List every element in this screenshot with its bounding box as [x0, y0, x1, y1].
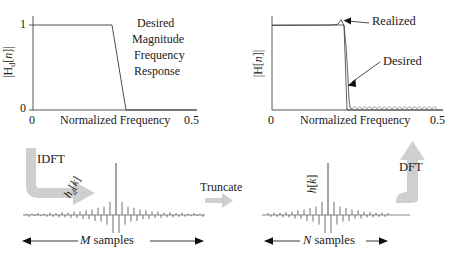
tr-x-axis-label: Normalized Frequency: [300, 113, 410, 128]
br-span-label: N samples: [303, 233, 355, 248]
idft-label: IDFT: [37, 152, 65, 167]
tr-realized-arrowhead: [344, 18, 352, 25]
tr-stopband-ripple: [352, 107, 437, 109]
tl-xtick-label-max: 0.5: [184, 113, 199, 128]
truncate-arrow-shape: [205, 193, 233, 208]
filter-design-figure: 1 0 |Hd[n]| 0 0.5 Normalized Frequency D…: [0, 0, 459, 254]
tr-xtick-label-max: 0.5: [430, 113, 445, 128]
dft-label: DFT: [399, 160, 423, 175]
tl-annotation-line-3: Frequency: [134, 48, 185, 63]
tr-realized-leader: [348, 21, 369, 23]
bl-span-label: M samples: [80, 233, 134, 248]
tl-annotation-line-1: Desired: [137, 16, 174, 31]
tr-xtick-label-0: 0: [268, 113, 274, 128]
tl-ytick-label-1: 1: [20, 17, 26, 32]
tl-y-axis-label: |Hd[n]|: [1, 46, 17, 77]
br-series-label: h[k]: [306, 175, 318, 194]
tl-x-axis-label: Normalized Frequency: [60, 113, 170, 128]
tr-desired-leader: [352, 62, 380, 82]
truncate-label: Truncate: [200, 180, 242, 195]
br-stems: [268, 163, 388, 233]
tl-annotation-line-4: Response: [134, 64, 180, 79]
tr-y-axis-label: |H[n]|: [251, 50, 266, 77]
tr-desired-arrowhead: [348, 80, 357, 88]
tr-callout-desired: Desired: [383, 54, 422, 69]
tl-annotation-line-2: Magnitude: [132, 32, 184, 47]
tl-xtick-label-0: 0: [29, 113, 35, 128]
truncate-block-arrow: [205, 193, 233, 208]
tl-ytick-label-0: 0: [20, 101, 26, 116]
tr-realized-curve: [272, 20, 352, 110]
tr-callout-realized: Realized: [372, 14, 416, 29]
